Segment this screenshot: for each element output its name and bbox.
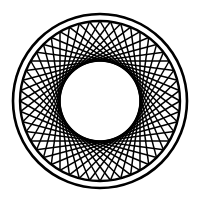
circular-chord-diagram	[0, 0, 200, 203]
background	[0, 0, 200, 203]
string-art-figure	[0, 0, 200, 203]
